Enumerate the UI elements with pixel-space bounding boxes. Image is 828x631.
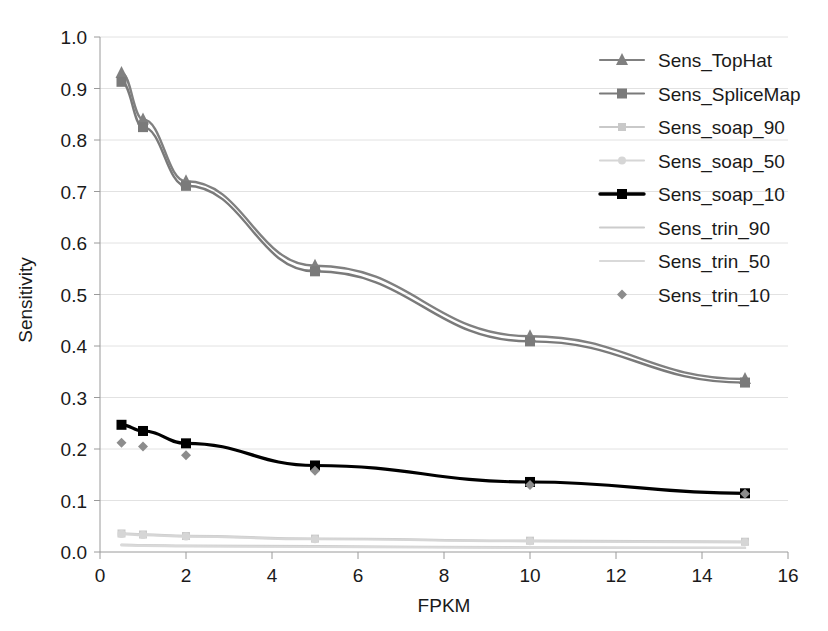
- y-tick-label: 0.5: [61, 285, 87, 306]
- x-tick-label: 0: [95, 565, 106, 586]
- legend-label: Sens_TopHat: [658, 50, 773, 72]
- legend-label: Sens_trin_10: [658, 285, 770, 307]
- y-tick-label: 0.7: [61, 182, 87, 203]
- x-tick-label: 14: [691, 565, 713, 586]
- x-tick-label: 12: [605, 565, 626, 586]
- y-tick-label: 1.0: [61, 27, 87, 48]
- y-tick-label: 0.0: [61, 542, 87, 563]
- x-axis: [100, 552, 788, 559]
- data-point-marker: [181, 181, 191, 191]
- y-tick-label: 0.6: [61, 233, 87, 254]
- sensitivity-vs-fpkm-chart: 0.00.10.20.30.40.50.60.70.80.91.0 024681…: [0, 0, 828, 631]
- y-axis-title: Sensitivity: [15, 257, 36, 343]
- data-point-marker: [138, 441, 148, 451]
- y-tick-label: 0.2: [61, 439, 87, 460]
- legend-label: Sens_soap_90: [658, 117, 785, 139]
- series-line: [122, 73, 746, 379]
- series-line: [122, 425, 746, 494]
- legend-item-Sens_soap_10[interactable]: Sens_soap_10: [600, 184, 785, 206]
- x-tick-label: 4: [267, 565, 278, 586]
- legend-label: Sens_soap_10: [658, 184, 785, 206]
- y-tick-label: 0.1: [61, 491, 87, 512]
- data-point-marker: [525, 336, 535, 346]
- legend-item-Sens_soap_90[interactable]: Sens_soap_90: [600, 117, 785, 139]
- data-point-marker: [741, 538, 749, 546]
- series-line: [122, 82, 746, 383]
- x-axis-title: FPKM: [418, 595, 471, 616]
- data-point-marker: [740, 378, 750, 388]
- y-tick-label: 0.8: [61, 130, 87, 151]
- legend-item-Sens_trin_90[interactable]: Sens_trin_90: [600, 218, 770, 240]
- legend-item-Sens_TopHat[interactable]: Sens_TopHat: [600, 50, 773, 72]
- series-Sens_soap_50: [118, 530, 750, 546]
- data-point-marker: [618, 157, 626, 165]
- data-point-marker: [617, 189, 627, 199]
- data-point-marker: [139, 531, 147, 539]
- data-point-marker: [117, 77, 127, 87]
- y-tick-label: 0.9: [61, 79, 87, 100]
- data-point-marker: [617, 89, 627, 99]
- x-tick-label: 6: [353, 565, 364, 586]
- x-tick-label: 2: [181, 565, 192, 586]
- data-point-marker: [311, 535, 319, 543]
- data-point-marker: [181, 450, 191, 460]
- series-Sens_SpliceMap: [117, 77, 751, 388]
- legend-item-Sens_soap_50[interactable]: Sens_soap_50: [600, 151, 785, 173]
- series-Sens_soap_10: [117, 420, 751, 498]
- data-point-marker: [618, 123, 626, 131]
- y-tick-labels: 0.00.10.20.30.40.50.60.70.80.91.0: [61, 27, 88, 563]
- legend-label: Sens_SpliceMap: [658, 84, 801, 106]
- data-point-marker: [526, 537, 534, 545]
- x-tick-labels: 0246810121416: [95, 565, 799, 586]
- data-point-marker: [138, 426, 148, 436]
- data-point-marker: [617, 290, 627, 300]
- data-point-marker: [117, 438, 127, 448]
- legend-label: Sens_soap_50: [658, 151, 785, 173]
- data-point-marker: [117, 420, 127, 430]
- data-series-group: [116, 66, 752, 548]
- data-point-marker: [310, 266, 320, 276]
- series-Sens_TopHat: [116, 66, 752, 384]
- x-tick-label: 10: [519, 565, 540, 586]
- data-point-marker: [181, 438, 191, 448]
- legend-item-Sens_trin_10[interactable]: Sens_trin_10: [617, 285, 770, 307]
- legend-label: Sens_trin_50: [658, 251, 770, 273]
- y-tick-label: 0.3: [61, 388, 87, 409]
- y-axis: [94, 37, 100, 552]
- data-point-marker: [116, 66, 128, 78]
- chart-canvas: 0.00.10.20.30.40.50.60.70.80.91.0 024681…: [0, 0, 828, 631]
- y-tick-label: 0.4: [61, 336, 88, 357]
- data-point-marker: [138, 122, 148, 132]
- legend-item-Sens_trin_50[interactable]: Sens_trin_50: [600, 251, 770, 273]
- x-tick-label: 16: [777, 565, 798, 586]
- legend-item-Sens_SpliceMap[interactable]: Sens_SpliceMap: [600, 84, 801, 106]
- data-point-marker: [118, 530, 126, 538]
- x-tick-label: 8: [439, 565, 450, 586]
- legend-label: Sens_trin_90: [658, 218, 770, 240]
- data-point-marker: [182, 533, 190, 541]
